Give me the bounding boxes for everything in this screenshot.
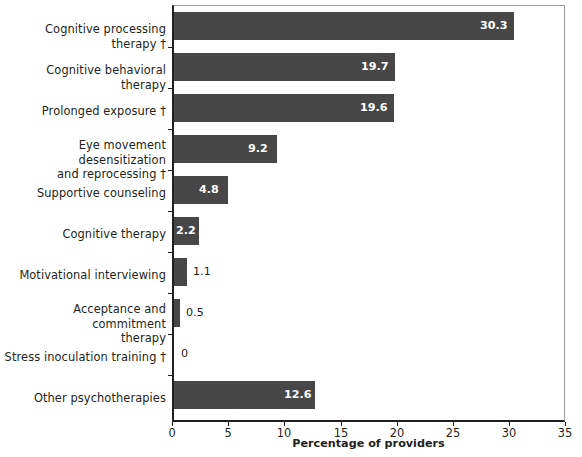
bar-value-label: 19.6 bbox=[360, 94, 388, 122]
bar[interactable] bbox=[174, 299, 180, 327]
bar-value-label: 0 bbox=[181, 340, 188, 368]
category-label: Motivational interviewing bbox=[0, 268, 166, 283]
y-axis-tick bbox=[168, 375, 174, 376]
category-label: Eye movement desensitization and reproce… bbox=[0, 138, 166, 182]
bar-value-label: 19.7 bbox=[361, 53, 389, 81]
bar-value-label: 12.6 bbox=[284, 381, 312, 409]
category-label: Cognitive behavioral therapy bbox=[0, 63, 166, 92]
bar-value-label: 9.2 bbox=[248, 135, 268, 163]
x-axis-title: Percentage of providers bbox=[172, 437, 565, 450]
category-label: Acceptance and commitment therapy bbox=[0, 302, 166, 346]
y-axis-tick bbox=[168, 88, 174, 89]
category-label: Prolonged exposure † bbox=[0, 104, 166, 119]
category-label: Other psychotherapies bbox=[0, 391, 166, 406]
bar-value-label: 0.5 bbox=[186, 299, 204, 327]
y-axis-tick bbox=[168, 47, 174, 48]
bar-value-label: 30.3 bbox=[480, 12, 508, 40]
category-label: Stress inoculation training † bbox=[0, 350, 166, 365]
y-axis-tick bbox=[168, 252, 174, 253]
bar-value-label: 1.1 bbox=[193, 258, 211, 286]
plot-area: 30.3 19.7 19.6 9.2 4.8 2.2 bbox=[172, 5, 565, 422]
y-axis-tick bbox=[168, 211, 174, 212]
bar-chart: Cognitive processing therapy † Cognitive… bbox=[0, 0, 582, 457]
y-axis-tick bbox=[168, 293, 174, 294]
y-axis-tick bbox=[168, 129, 174, 130]
y-axis-tick bbox=[168, 334, 174, 335]
bar-value-label: 4.8 bbox=[199, 176, 219, 204]
category-label: Cognitive therapy bbox=[0, 227, 166, 242]
bar[interactable] bbox=[174, 12, 514, 40]
category-label: Supportive counseling bbox=[0, 186, 166, 201]
bar-value-label: 2.2 bbox=[176, 217, 196, 245]
y-axis-tick bbox=[168, 170, 174, 171]
bar[interactable] bbox=[174, 258, 187, 286]
category-label: Cognitive processing therapy † bbox=[0, 22, 166, 51]
category-label-column: Cognitive processing therapy † Cognitive… bbox=[0, 5, 166, 422]
